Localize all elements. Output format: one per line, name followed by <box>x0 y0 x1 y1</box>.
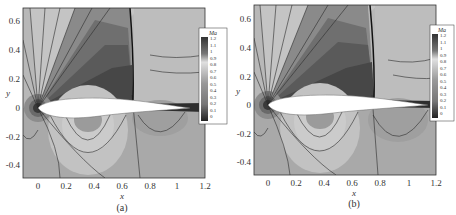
yticks-2: 0.2 <box>240 72 251 82</box>
contour-plot-b: 0.6 0.4 0.2 0 -0.2 -0.4 0 0.2 0.4 0.6 0.… <box>228 0 456 215</box>
colorbar-b: Ma 1.2 1.1 1 0.9 0.8 0.7 0.6 0.5 0.4 0.3… <box>430 25 454 121</box>
x-axis-label-b: x <box>351 188 356 198</box>
xticks-4: 0.8 <box>144 181 156 191</box>
yticks-1: 0.4 <box>240 43 252 53</box>
cbticks-10: 0.2 <box>210 101 217 106</box>
cbticks-4: 0.8 <box>440 59 447 64</box>
cbticks-1: 1.1 <box>440 40 447 45</box>
cbticks-6: 0.6 <box>440 72 447 77</box>
yticks-4: -0.2 <box>6 132 20 142</box>
xticks-4: 0.8 <box>374 178 386 188</box>
cbticks-4: 0.8 <box>210 62 217 67</box>
cbticks-11: 0.1 <box>440 105 447 110</box>
cbticks-11: 0.1 <box>210 108 217 113</box>
yticks-0: 0.6 <box>9 16 21 26</box>
cbticks-9: 0.3 <box>440 92 447 97</box>
caption-b: (b) <box>348 198 360 210</box>
cbticks-7: 0.5 <box>440 79 447 84</box>
yticks-3: 0 <box>16 103 21 113</box>
xticks-1: 0.2 <box>60 181 71 191</box>
xticks-6: 1.2 <box>199 181 210 191</box>
xticks-2: 0.4 <box>318 178 330 188</box>
cbticks-7: 0.5 <box>210 82 217 87</box>
yticks-3: 0 <box>247 100 252 110</box>
cbticks-0: 1.2 <box>210 36 217 41</box>
yticks-1: 0.4 <box>9 45 21 55</box>
xticks-5: 1 <box>175 181 180 191</box>
cbticks-8: 0.4 <box>440 85 447 90</box>
cbticks-3: 0.9 <box>440 53 447 58</box>
cbticks-9: 0.3 <box>210 95 217 100</box>
xticks-3: 0.6 <box>346 178 358 188</box>
caption-a: (a) <box>116 202 127 214</box>
cbticks-5: 0.7 <box>210 69 217 74</box>
xticks-2: 0.4 <box>88 181 100 191</box>
cbticks-10: 0.2 <box>440 98 447 103</box>
xticks-5: 1 <box>407 178 412 188</box>
xticks-3: 0.6 <box>116 181 128 191</box>
y-axis-label-b: y <box>235 86 240 96</box>
xticks-0: 0 <box>36 181 41 191</box>
panel-b: 0.6 0.4 0.2 0 -0.2 -0.4 0 0.2 0.4 0.6 0.… <box>228 0 456 215</box>
yticks-0: 0.6 <box>240 14 252 24</box>
yticks-5: -0.4 <box>6 160 21 170</box>
x-axis-label-a: x <box>119 191 124 201</box>
xticks-6: 1.2 <box>430 178 441 188</box>
y-axis-label-a: y <box>5 88 10 98</box>
xticks-0: 0 <box>266 178 271 188</box>
cbticks-6: 0.6 <box>210 75 217 80</box>
cbticks-1: 1.1 <box>210 43 217 48</box>
cbticks-8: 0.4 <box>210 88 217 93</box>
panel-a: 0.6 0.4 0.2 0 -0.2 -0.4 0 0.2 0.4 0.6 0.… <box>0 0 228 215</box>
cbticks-5: 0.7 <box>440 66 447 71</box>
contour-plot-a: 0.6 0.4 0.2 0 -0.2 -0.4 0 0.2 0.4 0.6 0.… <box>0 0 228 215</box>
colorbar-a: Ma 1.2 1.1 1 0.9 0.8 0.7 0.6 0.5 0.4 0.3… <box>199 28 227 124</box>
cbticks-3: 0.9 <box>210 56 217 61</box>
yticks-4: -0.2 <box>237 129 251 139</box>
cbticks-0: 1.2 <box>440 33 447 38</box>
yticks-2: 0.2 <box>9 74 20 84</box>
yticks-5: -0.4 <box>237 157 252 167</box>
xticks-1: 0.2 <box>290 178 301 188</box>
